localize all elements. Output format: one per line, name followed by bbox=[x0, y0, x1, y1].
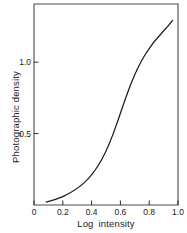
x-axis-title-word-2: intensity bbox=[99, 218, 135, 229]
chart-background bbox=[0, 0, 187, 233]
x-tick-label-4: 0.8 bbox=[137, 207, 161, 217]
x-axis-title: Logintensity bbox=[34, 218, 178, 229]
x-tick-label-0: 0 bbox=[22, 207, 46, 217]
x-tick-label-3: 0.6 bbox=[108, 207, 132, 217]
x-tick-label-2: 0.4 bbox=[80, 207, 104, 217]
x-axis-title-word-1: Log bbox=[77, 218, 93, 229]
photographic-density-chart bbox=[0, 0, 187, 233]
x-tick-label-1: 0.2 bbox=[51, 207, 75, 217]
x-tick-label-5: 1.0 bbox=[166, 207, 187, 217]
y-axis-title: Photographic density bbox=[9, 37, 23, 197]
